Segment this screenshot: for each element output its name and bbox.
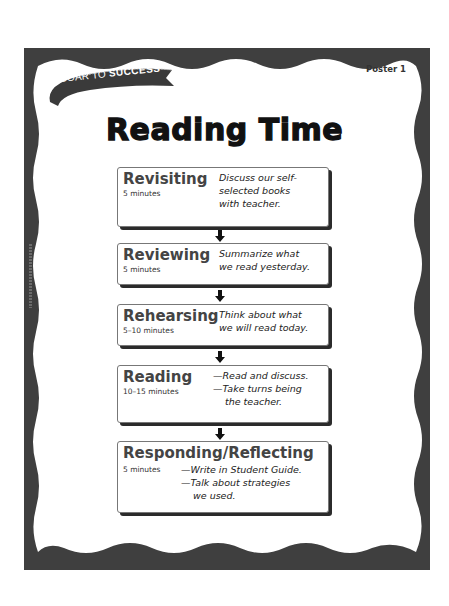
step-name: Responding/Reflecting [123, 444, 314, 462]
description-line: we will read today. [219, 321, 308, 334]
step-description: Discuss our self- selected books with te… [219, 171, 297, 210]
description-line: we read yesterday. [219, 260, 310, 273]
description-line: we used. [181, 489, 302, 502]
step-box-reviewing: Reviewing 5 minutes Summarize what we re… [117, 243, 329, 285]
step-time: 5–10 minutes [123, 326, 174, 335]
step-time: 5 minutes [123, 465, 161, 474]
description-line: —Read and discuss. [213, 369, 309, 382]
step-name: Revisiting [123, 170, 207, 188]
description-line: with teacher. [219, 197, 297, 210]
step-name: Rehearsing [123, 307, 219, 325]
step-name: Reviewing [123, 246, 210, 264]
step-box-revisiting: Revisiting 5 minutes Discuss our self- s… [117, 167, 329, 227]
step-description: —Read and discuss. —Take turns being the… [213, 369, 309, 408]
copyright-fineprint [29, 244, 32, 308]
description-line: Discuss our self- [219, 171, 297, 184]
step-time: 5 minutes [123, 265, 161, 274]
step-time: 5 minutes [123, 189, 161, 198]
description-line: Summarize what [219, 247, 310, 260]
down-arrow-icon [215, 351, 225, 363]
step-box-responding-reflecting: Responding/Reflecting 5 minutes —Write i… [117, 441, 329, 513]
description-line: —Write in Student Guide. [181, 463, 302, 476]
step-description: —Write in Student Guide. —Talk about str… [181, 463, 302, 502]
description-line: the teacher. [213, 395, 309, 408]
step-time: 10–15 minutes [123, 387, 179, 396]
step-description: Summarize what we read yesterday. [219, 247, 310, 273]
step-box-rehearsing: Rehearsing 5–10 minutes Think about what… [117, 304, 329, 346]
step-description: Think about what we will read today. [219, 308, 308, 334]
down-arrow-icon [215, 428, 225, 440]
down-arrow-icon [215, 290, 225, 302]
poster-label: Poster 1 [366, 64, 406, 74]
description-line: Think about what [219, 308, 308, 321]
down-arrow-icon [215, 230, 225, 242]
page-title: Reading Time [0, 112, 449, 147]
description-line: —Take turns being [213, 382, 309, 395]
step-box-reading: Reading 10–15 minutes —Read and discuss.… [117, 365, 329, 423]
description-line: selected books [219, 184, 297, 197]
description-line: —Talk about strategies [181, 476, 302, 489]
step-name: Reading [123, 368, 192, 386]
